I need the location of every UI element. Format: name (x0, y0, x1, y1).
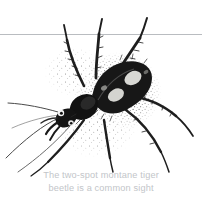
figure-caption: The two-spot montane tiger beetle is a c… (0, 169, 202, 195)
caption-line-1: The two-spot montane tiger (0, 169, 202, 182)
illustration-plate: The two-spot montane tiger beetle is a c… (0, 0, 202, 207)
caption-line-2: beetle is a common sight (0, 182, 202, 195)
antennae (6, 103, 60, 158)
